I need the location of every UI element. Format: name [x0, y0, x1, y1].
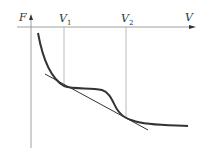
diagram-canvas — [0, 0, 204, 157]
free-energy-curve — [38, 33, 188, 126]
v2-label: V2 — [121, 13, 133, 27]
y-axis-arrow-icon — [29, 14, 33, 20]
y-axis-label: F — [19, 12, 27, 23]
v1-label: V1 — [59, 13, 71, 27]
x-axis-label: V — [185, 12, 193, 23]
x-axis-arrow-icon — [189, 25, 196, 29]
